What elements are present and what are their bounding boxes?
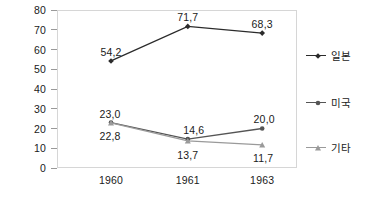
data-point-marker [316, 101, 321, 106]
data-point-marker [108, 58, 114, 64]
data-point-label: 13,7 [177, 149, 198, 161]
legend-marker-icon [314, 99, 322, 107]
data-point-label: 54,2 [100, 46, 121, 58]
data-point-label: 68,3 [252, 18, 273, 30]
legend-label: 기타 [331, 140, 351, 155]
series-line [111, 26, 262, 61]
legend-label: 미국 [331, 95, 351, 110]
data-point-label: 11,7 [253, 152, 273, 164]
data-point-label: 22,8 [99, 130, 120, 142]
data-point-label: 23,0 [99, 108, 120, 120]
data-point-marker [260, 126, 265, 131]
legend-item-일본[interactable]: 일본 [306, 48, 351, 62]
legend-swatch [306, 142, 326, 152]
chart-legend: 일본미국기타 [306, 10, 369, 168]
legend-swatch [306, 97, 326, 107]
legend-swatch [306, 50, 326, 60]
series-일본 [108, 24, 265, 64]
data-point-marker [259, 30, 265, 36]
data-point-marker [315, 145, 321, 151]
legend-marker-icon [314, 52, 322, 60]
legend-label: 일본 [331, 48, 351, 63]
line-chart: 80706050403020100 196019611963 54,271,76… [0, 0, 369, 199]
legend-item-기타[interactable]: 기타 [306, 140, 351, 154]
legend-marker-icon [314, 144, 322, 152]
data-point-marker [185, 24, 191, 30]
data-point-label: 14,6 [183, 124, 204, 136]
data-point-label: 20,0 [254, 113, 275, 125]
data-point-marker [315, 53, 321, 59]
legend-item-미국[interactable]: 미국 [306, 95, 351, 109]
data-point-label: 71,7 [177, 11, 198, 23]
